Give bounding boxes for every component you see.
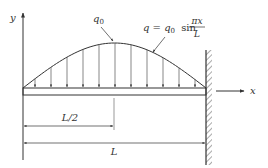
formula-q: q [143, 22, 149, 33]
load-curve [23, 43, 206, 88]
dim-label-full: L [110, 146, 118, 157]
beam-diagram: y x q0 q = q0 sin πx L L/2 L [0, 0, 268, 168]
svg-text:q = q0 sin: q = q0 sin [143, 22, 197, 35]
dim-label-half: L/2 [61, 112, 78, 123]
peak-load-label: q0 [93, 13, 104, 26]
peak-pointer [101, 27, 113, 41]
x-axis-label: x [250, 85, 256, 96]
formula-pointer [153, 37, 165, 52]
formula-numerator: πx [191, 16, 203, 26]
peak-sub: 0 [99, 18, 103, 26]
load-formula: q = q0 sin πx L [143, 16, 205, 39]
distributed-load [23, 43, 206, 88]
y-axis-label: y [9, 12, 16, 23]
wall-hatch [206, 50, 212, 165]
formula-q0-sub: 0 [171, 27, 175, 35]
formula-denominator: L [193, 29, 200, 39]
formula-eq: = [153, 22, 161, 33]
beam [23, 88, 206, 95]
